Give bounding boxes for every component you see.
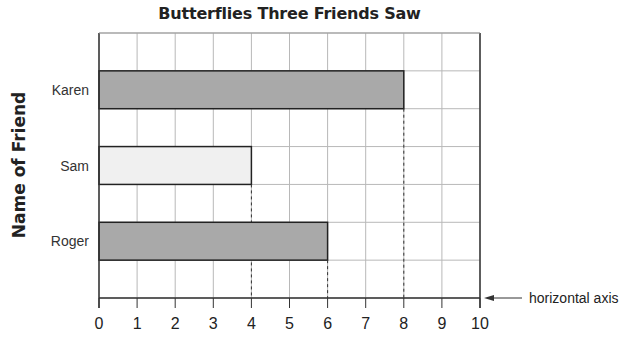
x-tick-label: 9 (437, 315, 446, 332)
x-tick-label: 4 (247, 315, 256, 332)
bar-roger (99, 222, 328, 260)
x-tick-label: 0 (95, 315, 104, 332)
annotation-label: horizontal axis (529, 290, 619, 306)
category-label: Karen (52, 82, 89, 98)
bar-sam (99, 147, 251, 185)
category-label: Sam (60, 158, 89, 174)
arrow-left-icon (484, 295, 494, 301)
x-tick-label: 6 (323, 315, 332, 332)
x-tick-label: 10 (471, 315, 489, 332)
x-tick-label: 1 (133, 315, 142, 332)
x-tick-label: 5 (285, 315, 294, 332)
x-tick-label: 2 (171, 315, 180, 332)
x-tick-label: 7 (361, 315, 370, 332)
bar-karen (99, 71, 404, 109)
category-label: Roger (51, 233, 89, 249)
bar-chart: KarenSamRoger012345678910horizontal axis (0, 0, 633, 346)
x-tick-label: 8 (399, 315, 408, 332)
x-tick-label: 3 (209, 315, 218, 332)
